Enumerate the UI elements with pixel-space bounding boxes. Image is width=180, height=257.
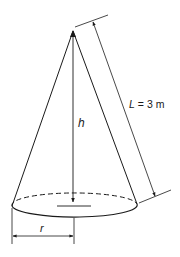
cone-diagram: h L= 3 m r (0, 0, 180, 257)
slant-extension-top (75, 15, 108, 27)
radius-label: r (40, 222, 45, 234)
slant-length-label: L= 3 m (129, 98, 165, 110)
height-dimension (57, 33, 91, 206)
height-label: h (78, 116, 85, 130)
cone-outline (12, 31, 137, 217)
slant-extension-bottom (139, 190, 171, 203)
cone-left-side (12, 31, 73, 206)
base-ellipse-back (12, 193, 137, 206)
